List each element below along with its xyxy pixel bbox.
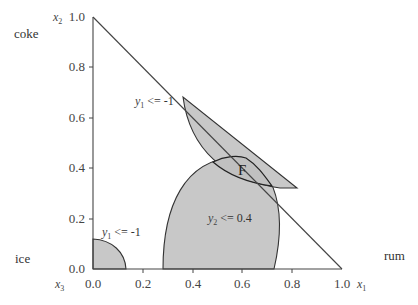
region-label-y1-upper: y1 <= -1: [134, 94, 174, 110]
x-ticks: [143, 269, 292, 273]
ternary-diagram: 0.0 0.2 0.4 0.6 0.8 1.0 0.0 0.2 0.4 0.6 …: [0, 0, 418, 305]
corner-label-coke: coke: [14, 26, 39, 41]
x-tick-label: 0.6: [234, 276, 251, 291]
y-ticks: [89, 67, 93, 219]
corner-label-ice: ice: [15, 251, 30, 266]
axis-var-x2: x2: [52, 10, 62, 26]
x-tick-label: 0.2: [135, 276, 151, 291]
axis-var-x3: x3: [54, 277, 64, 293]
x-tick-label: 0.0: [85, 276, 101, 291]
y-tick-label: 0.8: [69, 59, 85, 74]
axis-var-x1: x1: [356, 277, 366, 293]
y-tick-label: 0.2: [69, 211, 85, 226]
region-y1-lower: [93, 239, 126, 269]
y-tick-label: 0.4: [69, 160, 86, 175]
y-tick-label: 0.6: [69, 110, 86, 125]
corner-label-rum: rum: [384, 248, 405, 263]
y-tick-label: 1.0: [69, 9, 85, 24]
x-tick-label: 0.4: [185, 276, 202, 291]
feasible-label: F: [238, 162, 246, 178]
region-label-y1-lower: y1 <= -1: [101, 225, 141, 241]
x-tick-label: 1.0: [334, 276, 350, 291]
x-tick-label: 0.8: [284, 276, 300, 291]
y-tick-label: 0.0: [69, 261, 85, 276]
